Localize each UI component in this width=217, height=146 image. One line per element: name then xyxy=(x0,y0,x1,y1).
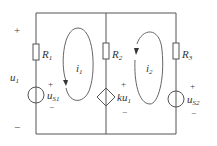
i2-label: i2 xyxy=(146,62,153,76)
ku1-plus-sign: + xyxy=(121,79,126,89)
arrow-i1-icon xyxy=(63,80,68,86)
us1-plus-sign: + xyxy=(48,79,53,89)
resistor-r2-icon xyxy=(103,43,109,59)
us2-plus-sign: + xyxy=(190,81,195,91)
u1-plus-sign: + xyxy=(14,24,20,36)
i1-label: i1 xyxy=(76,62,83,76)
ku1-label: ku1 xyxy=(117,91,131,105)
us1-label: uS1 xyxy=(47,89,60,103)
wires xyxy=(36,13,176,134)
ku1-minus-sign: − xyxy=(122,107,127,117)
r3-label: R3 xyxy=(181,48,193,62)
arrow-i2-icon xyxy=(134,48,139,55)
resistor-r3-icon xyxy=(173,43,179,59)
u1-minus-sign: − xyxy=(14,121,20,133)
circuit-diagram: + u1 − R1 R2 R3 + uS1 − + ku1 − + uS2 − … xyxy=(0,0,217,146)
us1-minus-sign: − xyxy=(49,102,54,112)
r1-label: R1 xyxy=(41,48,52,62)
us2-minus-sign: − xyxy=(191,108,196,118)
r2-label: R2 xyxy=(111,48,123,62)
us2-label: uS2 xyxy=(187,93,200,107)
resistor-r1-icon xyxy=(33,44,39,60)
u1-label: u1 xyxy=(10,71,19,85)
